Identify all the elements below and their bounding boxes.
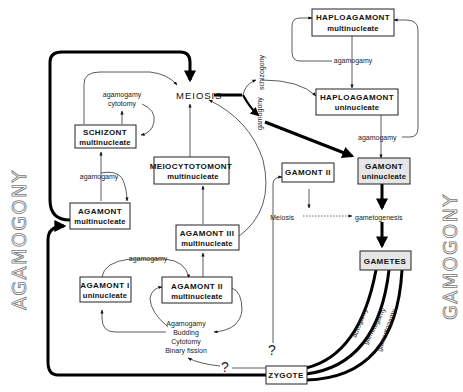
box-title: HAPLOAGAMONT <box>320 93 394 102</box>
arrow-schizogony-to-haploagamont <box>262 80 316 96</box>
arc-schizont-to-meiosis <box>84 72 177 124</box>
process-agamogamy: Agamogamy <box>166 320 206 328</box>
arrow-fork-schizogony <box>243 80 256 95</box>
box-title: SCHIZONT <box>83 128 127 137</box>
box-title: AGAMONT <box>78 207 122 216</box>
meiosis-label: MEIOSIS <box>176 90 223 101</box>
process-cytotomy: Cytotomy <box>171 338 201 346</box>
box-subtitle: uninucleate <box>362 172 406 181</box>
box-title: AGAMONT I <box>80 281 129 290</box>
box-agamont-i: AGAMONT I uninucleate <box>80 277 131 302</box>
agamogamy-top-label: agamogamy <box>334 57 373 65</box>
schizont-loop-label-1: agamogamy <box>103 91 142 99</box>
box-haploagamont-uninucleate: HAPLOAGAMONT uninucleate <box>316 89 398 115</box>
curve-autogamy <box>306 270 376 368</box>
box-subtitle: uninucleate <box>83 291 127 300</box>
box-title: MEIOCYTOTOMONT <box>150 162 233 171</box>
box-subtitle: multinucleate <box>167 172 219 181</box>
box-zygote: ZYGOTE <box>266 366 307 384</box>
agamont-i-ii-label: agamogamy <box>129 255 168 263</box>
schizont-loop-label-2: cytotomy <box>108 100 137 108</box>
gametogenesis-label: gametogenesis <box>355 214 403 222</box>
box-gametes: GAMETES <box>360 251 411 270</box>
gamogony-side-label: GAMOGONY <box>439 193 461 320</box>
box-agamont-multinucleate: AGAMONT multinucleate <box>70 203 130 229</box>
box-subtitle: multinucleate <box>74 217 126 226</box>
process-budding: Budding <box>173 329 199 337</box>
schizogony-label: schizogony <box>258 54 266 90</box>
box-title: GAMETES <box>364 257 407 266</box>
box-title: AGAMONT III <box>180 229 235 238</box>
box-subtitle: multinucleate <box>171 292 223 301</box>
arrow-processes-to-agamont-i <box>102 310 166 332</box>
box-agamont-ii: AGAMONT II multinucleate <box>162 277 232 303</box>
box-title: GAMONT <box>365 162 403 171</box>
life-cycle-diagram: AGAMOGONY GAMOGONY <box>0 0 463 392</box>
agamogony-side-label: AGAMOGONY <box>8 169 30 310</box>
box-subtitle: uninucleate <box>335 103 379 112</box>
box-gamont-ii: GAMONT II <box>282 163 334 182</box>
agamogamy-right-label: agamogamy <box>358 134 397 142</box>
box-title: AGAMONT II <box>171 282 223 291</box>
agamont-multi-up-label: agamogamy <box>80 173 119 181</box>
box-gamont-uninucleate: GAMONT uninucleate <box>358 158 410 184</box>
loop-haplo-uni-right <box>394 20 418 137</box>
loop-schizont <box>141 104 154 135</box>
box-title: ZYGOTE <box>268 371 304 380</box>
box-meiocytotomont: MEIOCYTOTOMONT multinucleate <box>150 157 233 184</box>
box-title: HAPLOAGAMONT <box>316 13 390 22</box>
box-subtitle: multinucleate <box>79 138 131 147</box>
box-subtitle: multinucleate <box>327 24 379 33</box>
process-binary-fission: Binary fission <box>165 347 207 355</box>
question-mark-processes: ? <box>221 359 229 375</box>
box-subtitle: multinucleate <box>181 239 233 248</box>
arrow-question-to-processes <box>188 358 220 366</box>
box-title: GAMONT II <box>285 168 331 177</box>
arrow-gamogony-to-gamont <box>265 122 352 156</box>
box-haploagamont-multinucleate: HAPLOAGAMONT multinucleate <box>312 9 394 36</box>
box-agamont-iii: AGAMONT III multinucleate <box>176 225 239 250</box>
gamogony-label: gamogony <box>256 97 264 130</box>
arrow-question-to-gamont-ii <box>273 177 282 343</box>
question-mark-gamont-ii: ? <box>268 342 276 358</box>
meiosis-small-label: Meiosis <box>270 214 294 221</box>
box-schizont: SCHIZONT multinucleate <box>75 125 136 148</box>
